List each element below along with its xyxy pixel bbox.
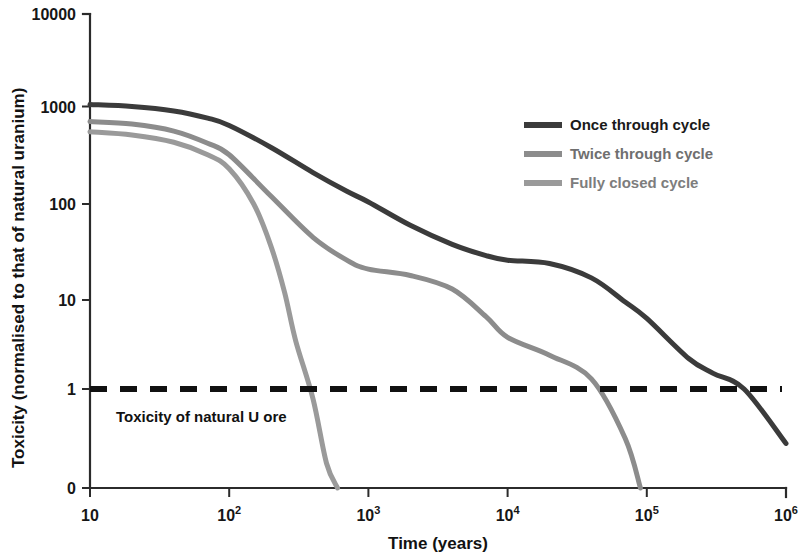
y-tick-label: 1000 [40,99,76,116]
y-tick-label: 1 [67,381,76,398]
chart-background [0,0,802,558]
legend-label: Once through cycle [570,116,710,133]
x-axis-title: Time (years) [388,534,488,553]
chart-canvas: Toxicity (normalised to that of natural … [0,0,802,558]
y-tick-label: 0 [67,480,76,497]
toxicity-decay-chart: Toxicity (normalised to that of natural … [0,0,802,558]
x-tick-label: 10 [81,507,99,524]
y-axis-title: Toxicity (normalised to that of natural … [9,88,28,468]
legend-label: Twice through cycle [570,145,713,162]
natural-u-ore-threshold-label: Toxicity of natural U ore [116,408,287,425]
y-tick-label: 10 [58,292,76,309]
y-tick-label: 10000 [32,6,77,23]
y-tick-label: 100 [49,196,76,213]
legend-label: Fully closed cycle [570,174,698,191]
